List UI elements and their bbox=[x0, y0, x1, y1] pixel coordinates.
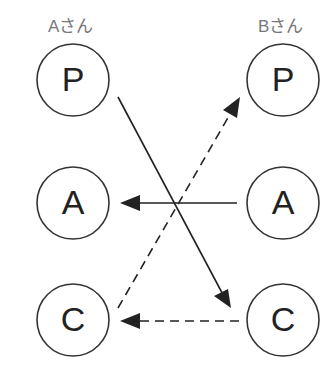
node-a-a-label: A bbox=[37, 183, 109, 222]
edge-ac-to-bp bbox=[118, 116, 229, 308]
node-a-p-label: P bbox=[37, 60, 109, 99]
node-b-c-label: C bbox=[247, 300, 319, 339]
node-a-c-label: C bbox=[37, 300, 109, 339]
node-b-a-label: A bbox=[247, 183, 319, 222]
node-b-p-label: P bbox=[247, 60, 319, 99]
